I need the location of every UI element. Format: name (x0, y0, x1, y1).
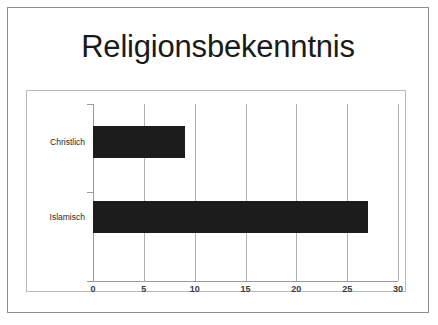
x-tick-label: 5 (129, 284, 159, 294)
chart-title: Religionsbekenntnis (8, 30, 428, 64)
x-tick-label: 10 (180, 284, 210, 294)
gridline-25 (347, 104, 348, 281)
gridline-10 (195, 104, 196, 281)
x-tick-label: 25 (332, 284, 362, 294)
y-axis-tick (87, 281, 93, 282)
x-tick-label: 0 (78, 284, 108, 294)
y-axis-tick (87, 104, 93, 105)
x-tick-label: 15 (231, 284, 261, 294)
chart-plot-area: ChristlichIslamisch 051015202530 (26, 90, 406, 292)
bar-christlich (93, 126, 185, 158)
gridline-20 (296, 104, 297, 281)
plot-inner: ChristlichIslamisch 051015202530 (27, 91, 405, 291)
gridline-30 (398, 104, 399, 281)
x-tick-label: 20 (281, 284, 311, 294)
category-label-islamisch: Islamisch (27, 212, 85, 222)
x-tick-label: 30 (383, 284, 413, 294)
gridline-15 (246, 104, 247, 281)
y-axis-tick (87, 192, 93, 193)
bar-islamisch (93, 201, 368, 233)
slide-frame: Religionsbekenntnis ChristlichIslamisch … (7, 7, 429, 313)
category-label-christlich: Christlich (27, 137, 85, 147)
x-axis-line (93, 281, 398, 282)
